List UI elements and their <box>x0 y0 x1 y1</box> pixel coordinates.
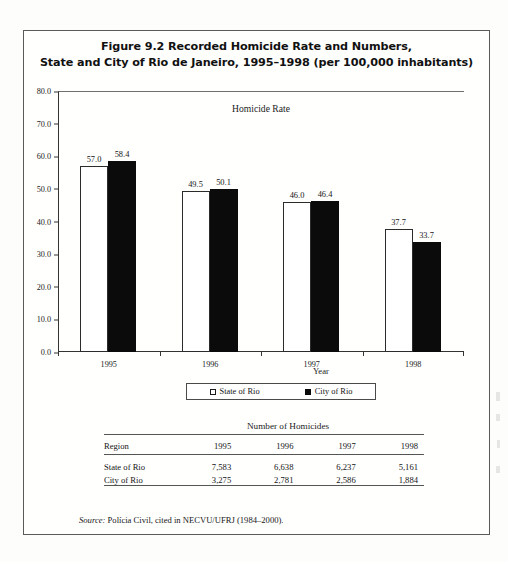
table-cell-1996: 2,781 <box>237 473 299 486</box>
table-header-year-1995: 1995 <box>175 438 237 455</box>
legend-item-state-of-rio[interactable]: State of Rio <box>210 387 260 396</box>
table-body: State of Rio7,5836,6386,2375,161City of … <box>104 458 424 486</box>
figure-frame: Figure 9.2 Recorded Homicide Rate and Nu… <box>23 30 490 535</box>
scan-artifact <box>496 392 500 401</box>
x-axis-label-1996: 1996 <box>202 360 218 369</box>
bar-city-of-rio-1995: 58.4 <box>108 161 136 352</box>
table-cell-region: City of Rio <box>104 473 175 486</box>
bar-group-1997: 46.046.41997 <box>261 91 363 352</box>
x-axis-tick-mark <box>363 352 364 356</box>
bar-state-of-rio-1996: 49.5 <box>182 191 210 352</box>
x-axis-tick-mark <box>261 352 262 356</box>
bar-group-1998: 37.733.71998 <box>363 91 465 352</box>
table-cell-1997: 2,586 <box>299 473 361 486</box>
bar-state-of-rio-1995: 57.0 <box>80 166 108 352</box>
x-axis-tick-mark <box>463 352 464 356</box>
legend-swatch-open-icon <box>210 389 216 395</box>
bar-value-label: 58.4 <box>115 150 130 159</box>
table-cell-1995: 3,275 <box>175 473 237 486</box>
bar-state-of-rio-1997: 46.0 <box>283 202 311 352</box>
source-note: Source: Polícia Civil, cited in NECVU/UF… <box>79 515 283 525</box>
x-axis-tick-mark <box>58 352 59 356</box>
legend-label: City of Rio <box>315 387 353 396</box>
y-axis-tick-30-0: 30.0 <box>37 250 58 259</box>
chart-legend: State of RioCity of Rio <box>186 383 376 400</box>
bar-city-of-rio-1996: 50.1 <box>210 189 238 352</box>
table-header-year-1996: 1996 <box>237 438 299 455</box>
x-axis-label-1998: 1998 <box>405 360 421 369</box>
homicide-numbers-table: Number of Homicides Region 1995 1996 199… <box>104 421 424 489</box>
legend-item-city-of-rio[interactable]: City of Rio <box>305 387 353 396</box>
y-axis-tick-0-0: 0.0 <box>41 348 58 357</box>
table-row: City of Rio3,2752,7812,5861,884 <box>104 473 424 486</box>
x-axis-label-1995: 1995 <box>101 360 117 369</box>
table-cell-1998: 1,884 <box>362 473 424 486</box>
y-axis-tick-60-0: 60.0 <box>37 152 58 161</box>
bar-value-label: 49.5 <box>188 180 203 189</box>
table: Region 1995 1996 1997 1998 State of Rio7… <box>104 434 424 489</box>
y-axis-tick-40-0: 40.0 <box>37 217 58 226</box>
bar-value-label: 46.0 <box>290 191 305 200</box>
bar-group-1995: 57.058.41995 <box>58 91 160 352</box>
scan-artifact <box>496 466 500 473</box>
legend-label: State of Rio <box>220 387 260 396</box>
table-row: State of Rio7,5836,6386,2375,161 <box>104 458 424 473</box>
table-caption: Number of Homicides <box>152 421 424 431</box>
bar-state-of-rio-1998: 37.7 <box>385 229 413 352</box>
y-axis-tick-20-0: 20.0 <box>37 282 58 291</box>
bars-layer: 57.058.4199549.550.1199646.046.4199737.7… <box>58 91 464 352</box>
bar-value-label: 50.1 <box>216 178 231 187</box>
source-label: Source: <box>79 515 105 525</box>
table-cell-1998: 5,161 <box>362 458 424 473</box>
legend-swatch-filled-icon <box>305 389 311 395</box>
x-axis-tick-mark <box>160 352 161 356</box>
y-axis-tick-50-0: 50.0 <box>37 184 58 193</box>
figure-title-line-2: State and City of Rio de Janeiro, 1995–1… <box>24 55 489 71</box>
scan-artifact <box>497 440 500 448</box>
table-rule-bottom <box>104 486 424 490</box>
y-axis-tick-80-0: 80.0 <box>37 87 58 96</box>
bar-value-label: 46.4 <box>318 190 333 199</box>
bar-group-1996: 49.550.11996 <box>160 91 262 352</box>
table-header-row: Region 1995 1996 1997 1998 <box>104 438 424 455</box>
figure-title: Figure 9.2 Recorded Homicide Rate and Nu… <box>24 39 489 70</box>
table-header-region: Region <box>104 438 175 455</box>
bar-value-label: 37.7 <box>391 218 406 227</box>
bar-city-of-rio-1998: 33.7 <box>413 242 441 352</box>
bar-value-label: 33.7 <box>419 231 434 240</box>
table-cell-1997: 6,237 <box>299 458 361 473</box>
table-header-year-1997: 1997 <box>299 438 361 455</box>
bar-value-label: 57.0 <box>87 155 102 164</box>
figure-title-line-1: Figure 9.2 Recorded Homicide Rate and Nu… <box>24 39 489 55</box>
bar-city-of-rio-1997: 46.4 <box>311 201 339 352</box>
table-cell-region: State of Rio <box>104 458 175 473</box>
y-axis-tick-10-0: 10.0 <box>37 315 58 324</box>
homicide-rate-chart: Homicide Rate 0.010.020.030.040.050.060.… <box>58 91 464 352</box>
table-foot <box>104 486 424 490</box>
table-cell-1996: 6,638 <box>237 458 299 473</box>
x-axis-title: Year <box>313 366 329 376</box>
source-text: Polícia Civil, cited in NECVU/UFRJ (1984… <box>105 515 283 525</box>
table-cell-1995: 7,583 <box>175 458 237 473</box>
y-axis-tick-70-0: 70.0 <box>37 119 58 128</box>
scan-artifact <box>496 414 500 421</box>
table-header-year-1998: 1998 <box>362 438 424 455</box>
table-head: Region 1995 1996 1997 1998 <box>104 435 424 459</box>
